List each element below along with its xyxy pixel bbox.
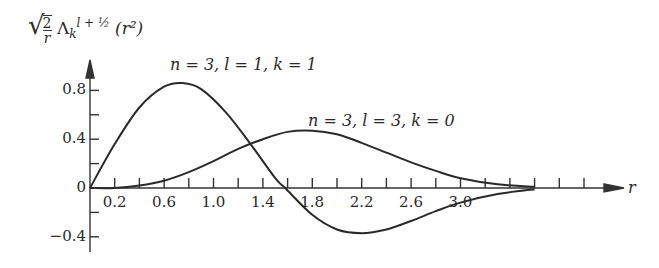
x-tick-label: 1.4 [251,193,275,211]
y-tick-label: 0 [76,178,86,196]
y-tick-label: 0.4 [62,129,86,147]
y-tick-label: 0.8 [62,80,86,98]
x-tick-label: 1.8 [300,193,324,211]
y-tick-label: −0.4 [50,227,86,245]
x-tick-label: 2.6 [399,193,423,211]
y-axis-label: √2r Λkl + ½ (r²) [28,10,143,45]
x-tick-label: 3.0 [449,193,473,211]
x-axis-label: r [628,178,636,197]
series-label-n3-l3-k0: n = 3, l = 3, k = 0 [308,111,455,130]
x-tick-label: 0.2 [103,193,127,211]
series-label-n3-l1-k1: n = 3, l = 1, k = 1 [170,55,317,74]
x-tick-label: 1.0 [202,193,226,211]
x-tick-label: 0.6 [152,193,176,211]
x-tick-label: 2.2 [350,193,374,211]
